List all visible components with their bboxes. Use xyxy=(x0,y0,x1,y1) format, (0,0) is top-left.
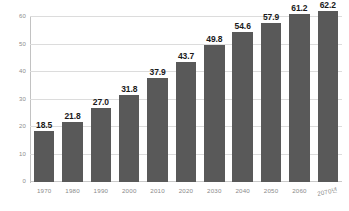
bar-value-label: 37.9 xyxy=(150,67,166,77)
x-tick-label: 1980 xyxy=(65,187,80,194)
bar-slot: 21.8 xyxy=(58,17,86,182)
bar-chart: 605040302010018.521.827.031.837.943.749.… xyxy=(0,0,349,211)
bar-slot: 61.2 xyxy=(285,17,313,182)
bar-value-label: 62.2 xyxy=(320,0,336,10)
x-tick-label: 1970 xyxy=(37,187,52,194)
bar-value-label: 27.0 xyxy=(93,97,109,107)
x-tick-slot: 2010 xyxy=(143,184,171,206)
bar-value-label: 43.7 xyxy=(178,51,194,61)
x-tick-slot: 2030 xyxy=(200,184,228,206)
x-tick-label: 1990 xyxy=(94,187,109,194)
bar[interactable]: 49.8 xyxy=(204,45,224,182)
bars-layer: 18.521.827.031.837.943.749.854.657.961.2… xyxy=(30,17,342,182)
bar-slot: 31.8 xyxy=(115,17,143,182)
bar-slot: 43.7 xyxy=(172,17,200,182)
bar-value-label: 31.8 xyxy=(121,84,137,94)
bar-value-label: 61.2 xyxy=(291,3,307,13)
x-tick-label: 2050 xyxy=(264,187,279,194)
bar-value-label: 21.8 xyxy=(64,111,80,121)
x-axis-labels: 1970198019902000201020202030204020502060… xyxy=(30,184,342,206)
bar[interactable]: 57.9 xyxy=(261,23,281,182)
bar-slot: 27.0 xyxy=(87,17,115,182)
x-tick-slot: 2020 xyxy=(172,184,200,206)
x-tick-slot: 1980 xyxy=(58,184,86,206)
x-tick-label: 2000 xyxy=(122,187,137,194)
bar-slot: 57.9 xyxy=(257,17,285,182)
bar-slot: 54.6 xyxy=(229,17,257,182)
plot-area: 605040302010018.521.827.031.837.943.749.… xyxy=(30,17,342,182)
x-tick-label: 2020 xyxy=(179,187,194,194)
bar-slot: 37.9 xyxy=(143,17,171,182)
y-tick-label: 30 xyxy=(19,96,26,102)
x-tick-slot: 2000 xyxy=(115,184,143,206)
bar[interactable]: 18.5 xyxy=(34,131,54,182)
x-tick-slot: 1970 xyxy=(30,184,58,206)
y-tick-label: 50 xyxy=(19,41,26,47)
y-tick-label: 40 xyxy=(19,68,26,74)
x-tick-slot: 2070년 xyxy=(314,184,342,206)
y-tick-label: 20 xyxy=(19,123,26,129)
bar-value-label: 49.8 xyxy=(206,34,222,44)
bar[interactable]: 61.2 xyxy=(289,14,309,182)
y-tick-label: 60 xyxy=(19,13,26,19)
y-tick-label: 10 xyxy=(19,151,26,157)
bar-value-label: 57.9 xyxy=(263,12,279,22)
bar-slot: 18.5 xyxy=(30,17,58,182)
x-tick-slot: 1990 xyxy=(87,184,115,206)
bar[interactable]: 37.9 xyxy=(147,78,167,182)
bar[interactable]: 43.7 xyxy=(176,62,196,182)
x-tick-label: 2060 xyxy=(292,187,307,194)
x-tick-label: 2010 xyxy=(150,187,165,194)
bar-slot: 49.8 xyxy=(200,17,228,182)
x-tick-label: 2040 xyxy=(235,187,250,194)
bar-value-label: 54.6 xyxy=(235,21,251,31)
bar-value-label: 18.5 xyxy=(36,120,52,130)
x-tick-label: 2030 xyxy=(207,187,222,194)
y-tick-label: 0 xyxy=(22,178,26,184)
bar[interactable]: 62.2 xyxy=(318,11,338,182)
x-tick-slot: 2040 xyxy=(229,184,257,206)
x-tick-slot: 2060 xyxy=(285,184,313,206)
bar[interactable]: 31.8 xyxy=(119,95,139,182)
bar[interactable]: 27.0 xyxy=(91,108,111,182)
bar[interactable]: 54.6 xyxy=(232,32,252,182)
bar[interactable]: 21.8 xyxy=(62,122,82,182)
bar-slot: 62.2 xyxy=(314,17,342,182)
x-tick-slot: 2050 xyxy=(257,184,285,206)
x-tick-label: 2070년 xyxy=(317,185,339,198)
